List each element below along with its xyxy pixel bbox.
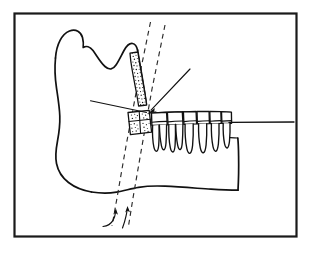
figure-container: Sagittal split ramus osteotomy of the ma…	[0, 0, 311, 255]
tooth-6-cervical-line	[222, 121, 232, 122]
tooth-4-root	[199, 124, 207, 153]
mandible-distal-wall	[238, 138, 239, 190]
tooth-3-root	[185, 124, 193, 153]
tooth-2-crown	[167, 112, 183, 125]
tooth-6-root	[223, 123, 230, 148]
tooth-2-roots	[169, 125, 176, 152]
tooth-6-crown	[222, 112, 232, 124]
mandible-illustration	[0, 0, 311, 255]
tooth-1-roots	[152, 125, 159, 151]
tooth-5-root	[211, 123, 219, 151]
tooth-4-crown	[197, 112, 209, 124]
tooth-3-crown	[183, 112, 196, 125]
tooth-5-cervical-line	[210, 121, 221, 122]
tooth-1-crown	[152, 112, 168, 125]
tooth-5-crown	[210, 112, 221, 124]
